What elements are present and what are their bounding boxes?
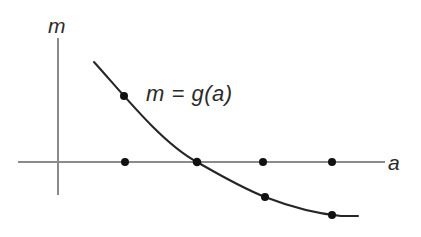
y-axis-label: m	[48, 15, 66, 36]
curve-point-axis-crossing	[193, 158, 202, 167]
curve-equation-annotation: m = g(a)	[146, 83, 233, 105]
graph-figure: m a m = g(a)	[0, 0, 421, 237]
x-axis-label: a	[388, 152, 400, 173]
curve-point	[261, 193, 269, 201]
curve-point	[120, 92, 128, 100]
axis-point	[121, 158, 129, 166]
axis-point	[259, 158, 267, 166]
curve-point	[328, 211, 336, 219]
axis-point	[328, 158, 336, 166]
